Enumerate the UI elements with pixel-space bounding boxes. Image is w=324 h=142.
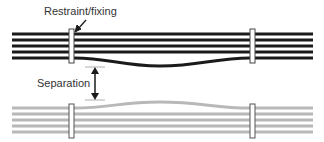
restraint-pointer-arrow (75, 20, 86, 32)
top-cable-bundle (12, 34, 313, 66)
restraint-clamp-left-top (69, 29, 74, 63)
restraint-label: Restraint/fixing (44, 6, 117, 17)
bottom-cable-bundle (12, 102, 313, 132)
separation-label: Separation (37, 78, 90, 89)
restraint-clamp-right-bottom (250, 104, 255, 138)
restraint-clamp-right-top (250, 29, 255, 63)
diagram-canvas (0, 0, 324, 142)
bottom-cable-1-bulging (12, 102, 313, 108)
separation-arrow-down-icon (91, 93, 99, 100)
separation-arrow-up-icon (91, 67, 99, 74)
restraint-clamp-left-bottom (69, 104, 74, 138)
top-cable-5-sagging (12, 58, 313, 66)
